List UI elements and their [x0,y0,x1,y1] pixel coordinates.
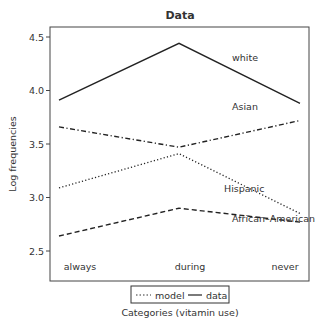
series-label: Hispanic [224,183,264,194]
chart-title: Data [165,9,194,22]
x-category-never: never [271,261,298,272]
y-axis-label: Log frequencies [7,116,18,191]
legend: model data [131,286,229,303]
y-tick-label: 4.5 [29,32,44,43]
x-axis-label: Categories (vitamin use) [121,307,238,318]
series-label: white [232,52,258,63]
x-category-labels: alwaysduringnever [64,261,299,272]
x-category-always: always [64,261,97,272]
plot-frame [50,27,309,281]
series-label: Asian [232,101,258,112]
y-tick-label: 3.5 [29,139,44,150]
y-axis: 2.53.03.54.04.5 [29,32,50,257]
line-chart: Data 2.53.03.54.04.5 whiteAsianHispanicA… [0,0,325,333]
series-line-white [59,43,300,103]
y-tick-label: 2.5 [29,246,44,257]
x-category-during: during [175,261,206,272]
series-labels: whiteAsianHispanicAfrican–American [224,52,315,224]
legend-model-label: model [155,290,185,301]
y-tick-label: 3.0 [29,192,44,203]
series-lines [59,43,300,236]
series-label: African–American [232,213,315,224]
y-tick-label: 4.0 [29,85,44,96]
legend-data-label: data [206,290,227,301]
series-line-asian [59,121,300,148]
